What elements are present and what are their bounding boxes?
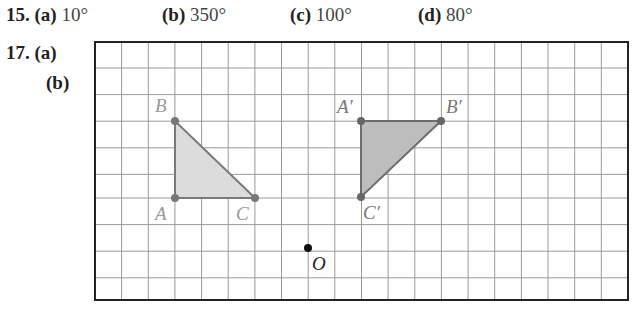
label-o: O bbox=[312, 253, 326, 274]
triangle-a-prime-b-prime-c-prime bbox=[357, 117, 445, 201]
point-a bbox=[171, 194, 179, 202]
label-c: C bbox=[236, 203, 249, 224]
point-b bbox=[171, 117, 179, 125]
label-b: B bbox=[155, 95, 167, 116]
triangle-abc bbox=[171, 117, 259, 202]
point-b-prime bbox=[437, 117, 445, 125]
point-o bbox=[304, 244, 312, 252]
label-a-prime: A′ bbox=[335, 96, 354, 117]
grid-figure: B A C A′ B′ C′ O bbox=[0, 0, 634, 313]
label-b-prime: B′ bbox=[446, 96, 463, 117]
point-a-prime bbox=[357, 117, 365, 125]
label-a: A bbox=[153, 203, 167, 224]
label-c-prime: C′ bbox=[363, 202, 381, 223]
point-c-prime bbox=[357, 193, 365, 201]
point-c bbox=[251, 194, 259, 202]
